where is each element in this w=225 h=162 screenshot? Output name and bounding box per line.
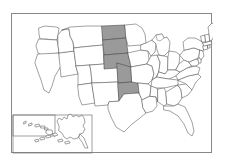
- alaska-mainland[interactable]: [35, 114, 88, 148]
- state-RI[interactable]: [208, 45, 210, 48]
- us-map-figure: [0, 0, 225, 162]
- hawaii-islands[interactable]: [24, 121, 53, 135]
- state-FL[interactable]: [164, 104, 194, 136]
- map-frame: [11, 13, 212, 153]
- us-states-map[interactable]: [12, 14, 213, 154]
- state-NJ[interactable]: [199, 50, 204, 60]
- state-MO[interactable]: [131, 64, 154, 84]
- state-SD[interactable]: [103, 38, 128, 55]
- state-WA[interactable]: [39, 26, 59, 40]
- state-WY[interactable]: [74, 45, 104, 66]
- state-CA[interactable]: [35, 53, 61, 93]
- state-ND[interactable]: [102, 25, 126, 40]
- state-TN[interactable]: [151, 77, 178, 88]
- state-OR[interactable]: [36, 39, 59, 55]
- state-AL[interactable]: [158, 88, 167, 106]
- state-MN[interactable]: [125, 24, 146, 46]
- state-UT[interactable]: [76, 65, 92, 85]
